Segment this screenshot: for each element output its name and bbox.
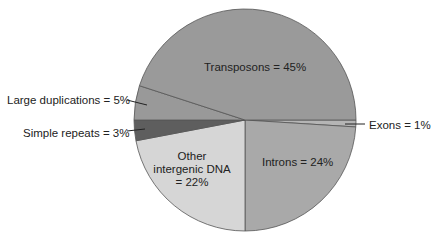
label-introns: Introns = 24% (262, 156, 333, 169)
slice-introns (245, 120, 356, 231)
label-other-intergenic: Other intergenic DNA = 22% (140, 150, 244, 189)
label-transposons: Transposons = 45% (204, 61, 306, 74)
label-other-line2: intergenic DNA (140, 163, 244, 176)
label-other-line3: = 22% (140, 176, 244, 189)
label-large-duplications: Large duplications = 5% (7, 94, 130, 107)
label-other-line1: Other (140, 150, 244, 163)
label-simple-repeats: Simple repeats = 3% (23, 127, 129, 140)
label-exons: Exons = 1% (369, 119, 431, 132)
